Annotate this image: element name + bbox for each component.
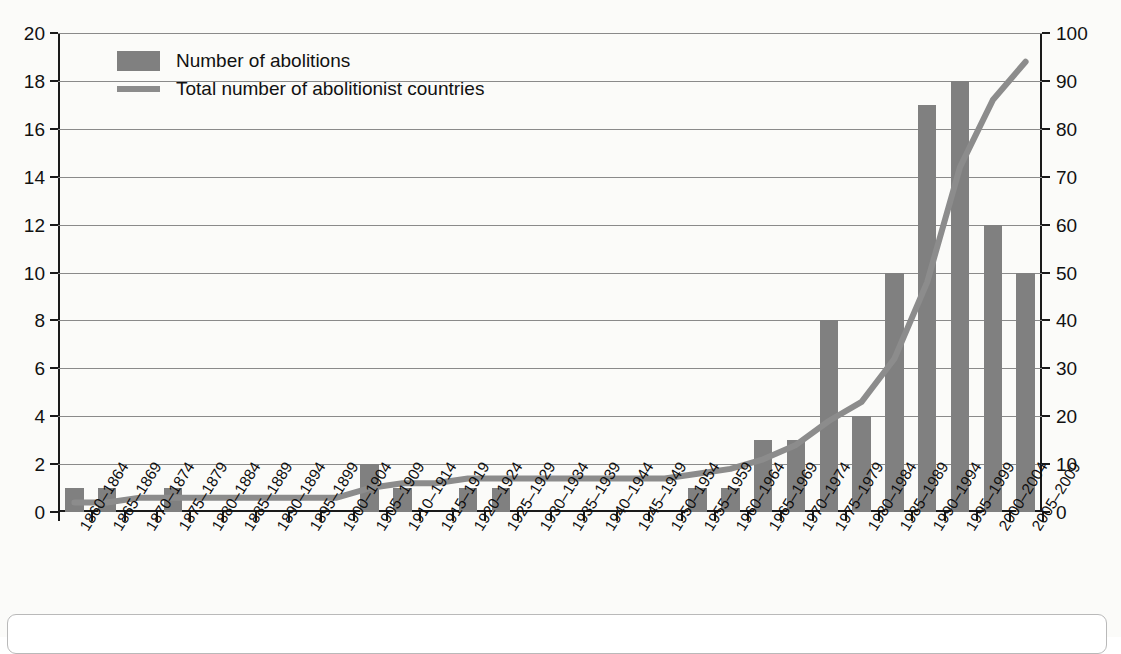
- y-tick-right: [1042, 415, 1050, 417]
- y-tick-left: [50, 463, 58, 465]
- y-tick-label-left: 4: [34, 407, 45, 426]
- y-tick-left: [50, 176, 58, 178]
- y-tick-label-left: 14: [24, 168, 45, 187]
- y-tick-label-left: 18: [24, 72, 45, 91]
- y-tick-right: [1042, 80, 1050, 82]
- y-tick-right: [1042, 128, 1050, 130]
- y-tick-right: [1042, 367, 1050, 369]
- y-tick-right: [1042, 319, 1050, 321]
- line-swatch-icon: [117, 86, 160, 92]
- y-tick-label-right: 40: [1056, 311, 1077, 330]
- y-tick-label-left: 6: [34, 359, 45, 378]
- y-tick-label-right: 50: [1056, 264, 1077, 283]
- y-tick-right: [1042, 176, 1050, 178]
- y-tick-label-left: 16: [24, 120, 45, 139]
- y-tick-left: [50, 224, 58, 226]
- y-tick-left: [50, 319, 58, 321]
- legend-item-line: Total number of abolitionist countries: [117, 75, 484, 103]
- y-tick-label-right: 70: [1056, 168, 1077, 187]
- y-tick-left: [50, 128, 58, 130]
- x-axis-labels: 1860–18641865–18691870–18741875–18791880…: [58, 525, 1042, 625]
- y-tick-label-right: 60: [1056, 216, 1077, 235]
- y-tick-left: [50, 32, 58, 34]
- y-tick-label-left: 8: [34, 311, 45, 330]
- y-tick-label-right: 20: [1056, 407, 1077, 426]
- y-tick-label-right: 90: [1056, 72, 1077, 91]
- y-tick-left: [50, 272, 58, 274]
- y-tick-right: [1042, 272, 1050, 274]
- y-tick-label-left: 0: [34, 503, 45, 522]
- y-tick-left: [50, 415, 58, 417]
- bar-swatch-icon: [117, 51, 160, 71]
- y-tick-label-right: 80: [1056, 120, 1077, 139]
- x-tick: [58, 512, 60, 521]
- line-series: [58, 33, 1042, 512]
- y-tick-label-left: 12: [24, 216, 45, 235]
- y-tick-label-right: 100: [1056, 24, 1088, 43]
- y-tick-label-left: 2: [34, 455, 45, 474]
- chart-legend: Number of abolitions Total number of abo…: [117, 47, 484, 103]
- line-path: [74, 62, 1025, 503]
- y-tick-left: [50, 80, 58, 82]
- y-tick-label-left: 20: [24, 24, 45, 43]
- y-tick-right: [1042, 224, 1050, 226]
- legend-label-bar: Number of abolitions: [176, 50, 350, 72]
- y-tick-label-right: 30: [1056, 359, 1077, 378]
- caption-box: [7, 614, 1107, 654]
- y-tick-label-left: 10: [24, 264, 45, 283]
- y-tick-left: [50, 367, 58, 369]
- plot-area: 02468101214161820 0102030405060708090100: [58, 33, 1042, 512]
- y-tick-right: [1042, 32, 1050, 34]
- legend-item-bar: Number of abolitions: [117, 47, 484, 75]
- legend-label-line: Total number of abolitionist countries: [176, 78, 484, 100]
- y-tick-left: [50, 511, 58, 513]
